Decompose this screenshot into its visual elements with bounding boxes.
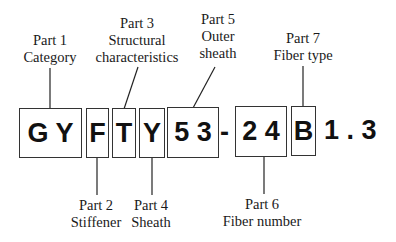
segment-box-gy: G Y [19,108,82,158]
leader-part-3 [124,67,138,109]
leader-part-5 [193,67,215,108]
segment-24-text: 2 4 [242,116,280,147]
segment-b-text: B [294,116,314,147]
segment-tail: 1 . 3 [324,106,377,155]
segment-box-y: Y [139,108,165,158]
segment-box-b: B [291,106,316,156]
label-part-6: Part 6 Fiber number [223,196,302,230]
segment-box-24: 2 4 [235,106,287,157]
part-4-desc: Sheath [131,214,170,231]
part-6-name: Part 6 [223,196,302,213]
segment-t-text: T [116,118,133,149]
label-part-2: Part 2 Stiffener [71,197,121,231]
segment-box-f: F [86,108,109,158]
segment-y-text: Y [143,118,161,149]
segment-53-text: 5 3 [174,117,212,148]
segment-box-t: T [112,108,136,158]
label-part-4: Part 4 Sheath [131,197,170,231]
part-2-desc: Stiffener [71,214,121,231]
segment-gy-text: G Y [27,118,73,149]
segment-box-53: 5 3 [167,107,219,158]
segment-dash: - [220,108,229,157]
part-2-name: Part 2 [71,197,121,214]
cable-code-diagram: Part 1 Category Part 3 Structural charac… [0,0,396,242]
part-4-name: Part 4 [131,197,170,214]
part-6-desc: Fiber number [223,213,302,230]
segment-f-text: F [89,118,106,149]
